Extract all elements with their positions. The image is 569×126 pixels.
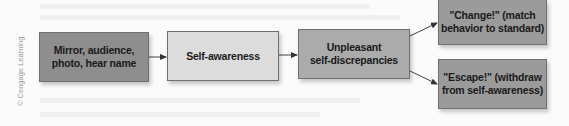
node-self-awareness: Self-awareness [167, 31, 279, 81]
node-self-discrepancies-label: Unpleasant self-discrepancies [310, 41, 398, 67]
node-change-label: "Change!" (match behavior to standard) [441, 9, 544, 35]
node-change: "Change!" (match behavior to standard) [438, 0, 547, 45]
node-self-awareness-label: Self-awareness [186, 50, 260, 63]
arrow-discrepancies-to-change [410, 23, 437, 36]
node-trigger: Mirror, audience, photo, hear name [39, 32, 149, 82]
node-escape-label: "Escape!" (withdraw from self-awareness) [442, 71, 543, 97]
node-trigger-label: Mirror, audience, photo, hear name [52, 44, 136, 70]
arrow-discrepancies-to-escape [410, 71, 437, 84]
node-escape: "Escape!" (withdraw from self-awareness) [438, 59, 547, 109]
node-self-discrepancies: Unpleasant self-discrepancies [298, 29, 410, 79]
